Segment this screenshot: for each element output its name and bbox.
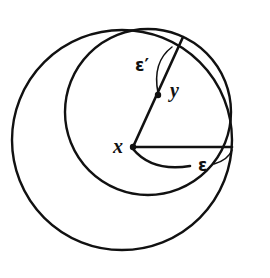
midpoint-dot	[155, 92, 161, 98]
geometry-figure: x y ε′ ε	[0, 0, 270, 278]
epsilon-arc	[133, 149, 190, 167]
label-x: x	[113, 136, 123, 156]
diagram-canvas	[0, 0, 270, 278]
vertex-dot-x	[130, 144, 136, 150]
label-epsilon-prime: ε′	[135, 57, 149, 74]
label-y: y	[170, 80, 179, 100]
label-epsilon: ε	[198, 157, 207, 174]
